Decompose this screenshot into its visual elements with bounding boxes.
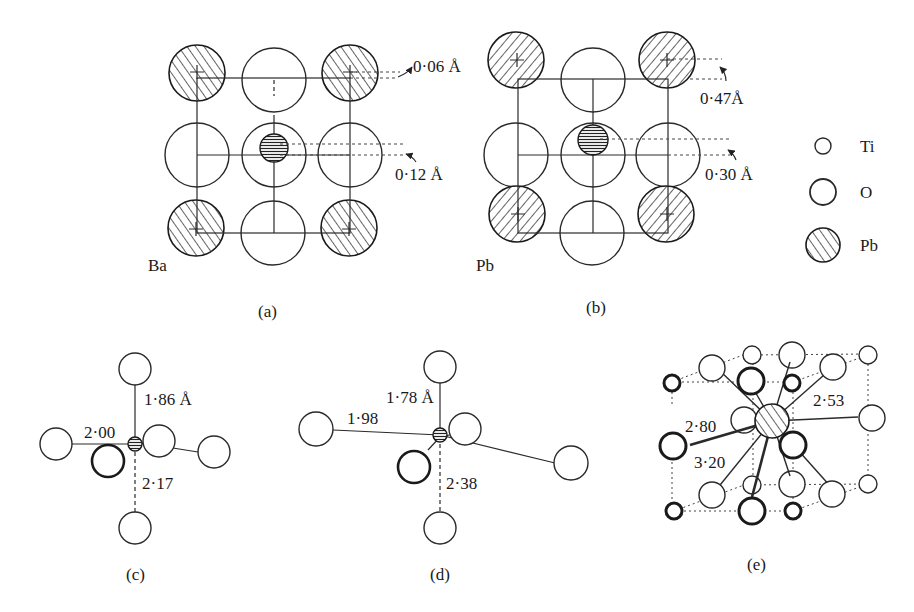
bond-length-label: 2·00: [84, 423, 115, 442]
o-legend-icon: [810, 179, 836, 205]
panel-c: 1·86 Å 2·00 2·17 (c): [40, 353, 230, 584]
oxygen-atom: [424, 512, 456, 544]
oxygen-atom-front: [738, 368, 764, 394]
legend-label-o: O: [860, 183, 872, 202]
bond-length-label: 2·17: [142, 474, 174, 493]
ti-atom: [433, 428, 447, 442]
pb-legend-icon: [806, 228, 840, 262]
panel-caption: (b): [586, 298, 606, 317]
oxygen-atom-front: [660, 433, 686, 459]
oxygen-atom: [143, 425, 175, 457]
oxygen-atom-front: [398, 451, 430, 483]
ti-atom-front: [785, 503, 801, 519]
oxygen-atom: [119, 512, 151, 544]
perovskite-structure-figure: 0·06 Å 0·12 Å Ba (a) 0·47Å 0·30 Å Pb (b)…: [0, 0, 914, 612]
legend-label-pb: Pb: [860, 236, 878, 255]
pb-atom: [755, 404, 789, 438]
bond-length-label: 2·38: [446, 474, 477, 493]
displacement-label: 0·12 Å: [395, 165, 443, 184]
oxygen-atom: [859, 405, 885, 431]
pb-corner-label: Pb: [476, 256, 494, 275]
ti-atom: [128, 437, 142, 451]
ti-atom-front: [666, 503, 682, 519]
displacement-label: 0·06 Å: [413, 57, 461, 76]
oxygen-atom: [449, 413, 481, 445]
oxygen-atom: [554, 446, 588, 480]
ti-atom: [743, 476, 761, 494]
bond-length-label: 2·80: [685, 417, 716, 436]
bond-length-label: 1·98: [347, 409, 378, 428]
oxygen-atom: [424, 351, 456, 383]
panel-caption: (e): [747, 555, 766, 574]
panel-a: 0·06 Å 0·12 Å Ba (a): [148, 45, 461, 321]
displacement-label: 0·30 Å: [705, 165, 753, 184]
oxygen-atom: [699, 482, 725, 508]
oxygen-atom-front: [739, 498, 765, 524]
panel-b: 0·47Å 0·30 Å Pb (b): [476, 32, 753, 317]
ba-corner-label: Ba: [148, 256, 167, 275]
oxygen-atom: [699, 355, 725, 381]
panel-caption: (d): [430, 565, 450, 584]
panel-caption: (a): [258, 302, 277, 321]
ti-atom-front: [664, 375, 680, 391]
oxygen-atom: [119, 353, 151, 385]
oxygen-atom-front: [92, 445, 124, 477]
ti-atom: [859, 475, 877, 493]
displacement-label: 0·47Å: [700, 89, 744, 108]
ti-atom: [578, 125, 608, 155]
legend: Ti O Pb: [806, 137, 878, 262]
ti-atom-front: [784, 375, 800, 391]
legend-label-ti: Ti: [860, 137, 875, 156]
oxygen-atom-front: [780, 432, 806, 458]
ti-atom: [859, 346, 877, 364]
oxygen-atom: [819, 481, 845, 507]
bond-length-label: 1·86 Å: [144, 390, 192, 409]
oxygen-atom: [779, 342, 805, 368]
oxygen-atom: [198, 436, 230, 468]
bond-length-label: 2·53: [813, 391, 844, 410]
ti-atom: [260, 134, 288, 162]
oxygen-atom: [299, 412, 333, 446]
bond-length-label: 1·78 Å: [386, 388, 434, 407]
panel-e: 2·53 2·80 3·20 (e): [660, 342, 885, 574]
bond-length-label: 3·20: [694, 453, 725, 472]
panel-caption: (c): [126, 565, 145, 584]
oxygen-atom: [820, 354, 846, 380]
ti-legend-icon: [815, 138, 831, 154]
oxygen-atom: [40, 428, 72, 460]
oxygen-atom: [779, 471, 805, 497]
panel-d: 1·78 Å 1·98 2·38 (d): [299, 351, 588, 584]
ti-atom: [743, 346, 761, 364]
